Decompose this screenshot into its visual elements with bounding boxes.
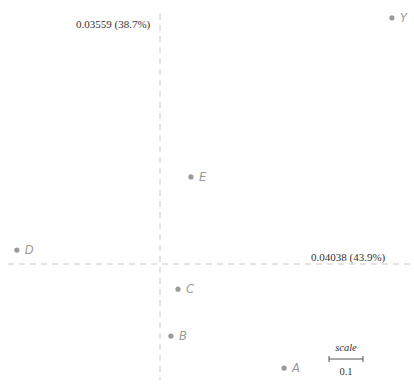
point-marker [175,287,180,292]
point-marker [168,333,173,338]
point-label: B [179,329,187,343]
data-points: YEDCBA [14,11,408,375]
point-label: C [186,282,194,296]
scale-label: scale [335,342,357,353]
point-label: E [199,170,207,184]
biplot: 0.03559 (38.7%) 0.04038 (43.9%) YEDCBA s… [0,0,414,388]
scale-value: 0.1 [339,366,352,377]
data-point-c: C [175,282,194,296]
data-point-d: D [14,243,34,257]
point-marker [389,15,394,20]
point-label: D [25,243,34,257]
data-point-e: E [188,170,207,184]
y-axis-label: 0.03559 (38.7%) [76,18,151,31]
point-marker [282,365,287,370]
scale-bar: scale 0.1 [329,342,363,377]
x-axis-label: 0.04038 (43.9%) [311,251,386,264]
data-point-a: A [282,361,301,375]
data-point-b: B [168,329,187,343]
axes [8,14,410,380]
point-marker [14,247,19,252]
point-label: Y [400,11,408,25]
point-label: A [291,361,300,375]
data-point-y: Y [389,11,408,25]
point-marker [188,174,193,179]
